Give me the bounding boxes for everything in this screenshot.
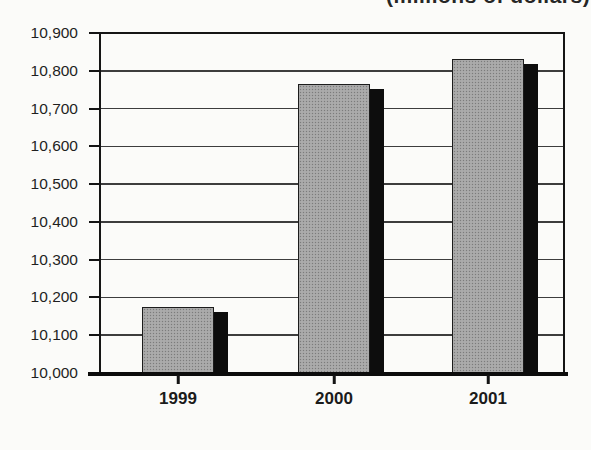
y-axis-label: 10,400	[10, 213, 78, 231]
x-axis-label-2001: 2001	[448, 389, 528, 409]
y-axis-label: 10,500	[10, 175, 78, 193]
y-axis-label: 10,000	[10, 364, 78, 382]
y-axis-label: 10,200	[10, 288, 78, 306]
x-axis-tick	[487, 375, 490, 384]
y-axis-tick	[89, 32, 100, 34]
y-axis-label: 10,900	[10, 24, 78, 42]
bar-1999	[142, 307, 214, 373]
x-axis-label-1999: 1999	[138, 389, 218, 409]
y-axis-tick	[89, 334, 100, 336]
bar-2000	[298, 84, 370, 373]
x-axis-tick	[177, 375, 180, 384]
y-axis-tick	[89, 221, 100, 223]
bar-2001	[452, 59, 524, 373]
x-axis-tick	[333, 375, 336, 384]
y-axis-label: 10,700	[10, 100, 78, 118]
x-axis-label-2000: 2000	[294, 389, 374, 409]
y-axis-tick	[89, 70, 100, 72]
y-axis-tick	[89, 183, 100, 185]
y-axis-label: 10,300	[10, 251, 78, 269]
y-axis-label: 10,800	[10, 62, 78, 80]
y-axis-tick	[89, 108, 100, 110]
y-axis-tick	[89, 296, 100, 298]
y-axis-tick	[89, 145, 100, 147]
y-axis-label: 10,600	[10, 137, 78, 155]
y-axis-label: 10,100	[10, 326, 78, 344]
chart-caption-clipped: (millions of dollars)	[386, 0, 586, 8]
scanned-bar-chart: (millions of dollars) 10,90010,80010,700…	[0, 0, 591, 450]
x-axis-line	[88, 372, 568, 376]
y-axis-tick	[89, 259, 100, 261]
